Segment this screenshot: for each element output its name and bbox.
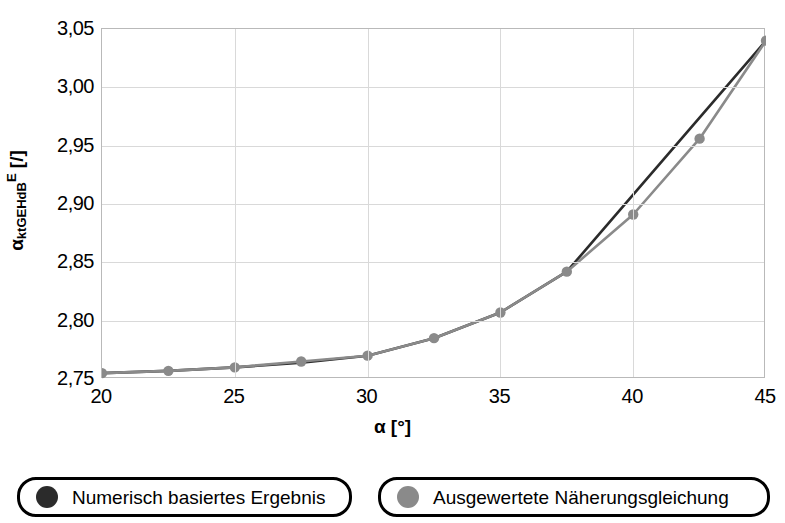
y-axis-title-superscript: E: [4, 173, 19, 182]
legend-marker-icon: [397, 486, 419, 508]
data-point-marker: [694, 133, 704, 143]
plot-area: [101, 28, 765, 378]
legend-item-label: Numerisch basiertes Ergebnis: [72, 488, 325, 507]
legend-item-ausgewertete-naeherungsgleichung[interactable]: Ausgewertete Näherungsgleichung: [378, 477, 770, 517]
y-axis-tick-labels: 3,053,002,952,902,852,802,75: [28, 0, 94, 523]
gridline-horizontal: [102, 87, 764, 88]
legend-item-numerisch-basiertes-ergebnis[interactable]: Numerisch basiertes Ergebnis: [17, 477, 352, 517]
chart-legend: Numerisch basiertes Ergebnis Ausgewertet…: [0, 474, 785, 520]
gridline-horizontal: [102, 204, 764, 205]
x-axis-title: α [°]: [0, 416, 785, 438]
x-axis-tick-label: 45: [735, 386, 785, 406]
x-axis-tick-label: 20: [71, 386, 131, 406]
x-axis-tick-label: 30: [337, 386, 397, 406]
gridline-vertical: [500, 29, 501, 377]
data-point-marker: [163, 366, 173, 376]
legend-marker-icon: [36, 486, 58, 508]
gridline-horizontal: [102, 262, 764, 263]
y-axis-tick-label: 2,95: [36, 135, 94, 155]
y-axis-tick-label: 3,05: [36, 18, 94, 38]
gridline-vertical: [368, 29, 369, 377]
y-axis-tick-label: 3,00: [36, 76, 94, 96]
y-axis-title-subscript: ktGEHdB: [14, 182, 29, 239]
x-axis-tick-label: 40: [602, 386, 662, 406]
y-axis-tick-label: 2,90: [36, 193, 94, 213]
legend-item-label: Ausgewertete Näherungsgleichung: [433, 488, 729, 507]
gridline-vertical: [633, 29, 634, 377]
series-line: [102, 41, 766, 374]
y-axis-title-unit: [/]: [6, 150, 27, 168]
x-axis-tick-labels: 202530354045: [0, 386, 785, 412]
gridline-horizontal: [102, 146, 764, 147]
data-point-marker: [102, 368, 107, 378]
gridline-horizontal: [102, 321, 764, 322]
x-axis-tick-label: 25: [204, 386, 264, 406]
series-line: [102, 41, 766, 374]
y-axis-title-symbol: α: [6, 239, 27, 251]
chart-figure: 3,053,002,952,902,852,802,75 20253035404…: [0, 0, 785, 523]
data-point-marker: [429, 333, 439, 343]
y-axis-tick-label: 2,80: [36, 310, 94, 330]
gridline-vertical: [235, 29, 236, 377]
y-axis-tick-label: 2,75: [36, 368, 94, 388]
y-axis-title: αktGEHdBE [/]: [4, 101, 29, 301]
x-axis-tick-label: 35: [469, 386, 529, 406]
data-point-marker: [296, 356, 306, 366]
y-axis-tick-label: 2,85: [36, 251, 94, 271]
data-point-marker: [562, 266, 572, 276]
